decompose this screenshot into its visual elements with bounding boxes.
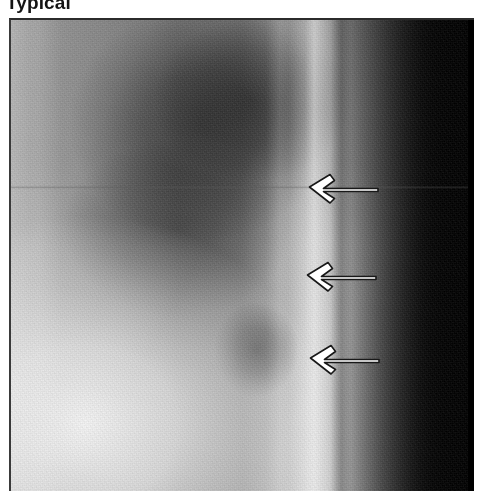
paraspinal-soft-stripe xyxy=(11,20,474,491)
mid-lung-opacity xyxy=(11,20,474,491)
annotation-arrow-3 xyxy=(308,341,384,375)
annotation-arrow-1 xyxy=(307,170,383,204)
film-right-edge xyxy=(468,20,474,491)
rib-shadow-layer xyxy=(11,20,474,491)
right-dark-field xyxy=(11,20,474,491)
upper-lung-opacity xyxy=(11,20,474,491)
film-grain-layer xyxy=(11,20,474,491)
scan-line-artifact xyxy=(11,20,474,491)
left-edge-highlight xyxy=(11,20,474,491)
left-arrow-icon xyxy=(305,258,381,292)
figure-label: Typical xyxy=(6,0,71,13)
bright-vertical-stripe xyxy=(11,20,474,491)
film-base-tone-layer xyxy=(11,20,474,491)
annotation-arrow-2 xyxy=(305,258,381,292)
left-arrow-icon xyxy=(307,170,383,204)
left-arrow-icon xyxy=(308,341,384,375)
film-grain-layer-2 xyxy=(11,20,474,491)
chest-radiograph-image xyxy=(11,20,474,491)
pleural-line xyxy=(11,20,474,491)
lower-oval-opacity xyxy=(11,20,474,491)
lower-left-bright-wash xyxy=(11,20,474,491)
radiograph-frame xyxy=(9,18,474,491)
upper-lung-opacity-2 xyxy=(11,20,474,491)
film-vertical-tone-layer xyxy=(11,20,474,491)
